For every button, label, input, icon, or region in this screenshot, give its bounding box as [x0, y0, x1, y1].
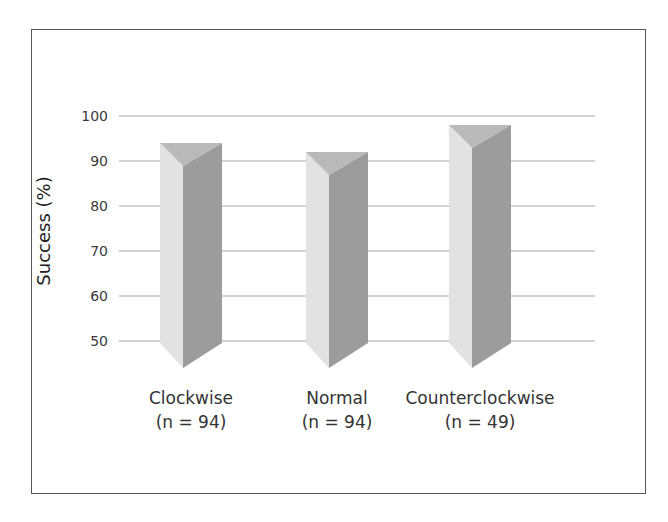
category-label: Normal — [306, 388, 368, 408]
category-label: Counterclockwise — [405, 388, 554, 408]
y-tick-label: 90 — [90, 153, 108, 169]
y-axis-label: Success (%) — [33, 176, 54, 285]
y-tick-label: 80 — [90, 198, 108, 214]
y-axis-ticks: 5060708090100 — [81, 108, 108, 349]
bar-chart: 5060708090100 Clockwise(n = 94)Normal(n … — [0, 0, 668, 522]
bar-counterclockwise — [449, 125, 511, 368]
category-label: Clockwise — [149, 388, 233, 408]
y-tick-label: 100 — [81, 108, 108, 124]
bar-normal — [306, 152, 368, 368]
y-tick-label: 70 — [90, 243, 108, 259]
bars — [160, 125, 511, 368]
category-sample-size: (n = 94) — [156, 412, 227, 432]
y-tick-label: 60 — [90, 288, 108, 304]
y-tick-label: 50 — [90, 333, 108, 349]
category-sample-size: (n = 94) — [302, 412, 373, 432]
category-sample-size: (n = 49) — [445, 412, 516, 432]
bar-clockwise — [160, 143, 222, 368]
x-axis-categories: Clockwise(n = 94)Normal(n = 94)Countercl… — [149, 388, 555, 432]
